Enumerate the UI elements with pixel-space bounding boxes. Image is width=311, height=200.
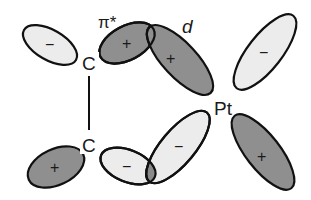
pt-upper-right-lobe: − <box>223 5 306 98</box>
sign-label: + <box>257 148 266 165</box>
orbital-label-d: d <box>182 16 194 37</box>
pt-lower-right-lobe: + <box>221 105 304 198</box>
sign-label: − <box>45 36 54 53</box>
orbital-diagram: − + + − + + − − <box>0 0 311 200</box>
sign-label: + <box>166 50 175 67</box>
sign-label: + <box>50 159 59 176</box>
sign-label: + <box>122 35 131 52</box>
atom-label-pt: Pt <box>214 98 233 119</box>
sign-label: − <box>174 138 183 155</box>
sign-label: − <box>259 44 268 61</box>
orbital-label-pi-star: π* <box>98 13 117 32</box>
atom-label-c-top: C <box>82 53 96 74</box>
c-top-left-lobe: − <box>17 17 84 73</box>
atom-label-c-bottom: C <box>82 135 96 156</box>
pt-upper-left-lobe: + <box>137 15 223 104</box>
sign-label: − <box>122 158 131 175</box>
